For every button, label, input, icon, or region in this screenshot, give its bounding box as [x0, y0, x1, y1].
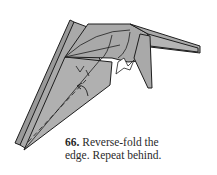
step-caption: 66. Reverse-fold the edge. Repeat behind…: [65, 136, 215, 162]
caption-line-2: edge. Repeat behind.: [65, 149, 161, 161]
step-number: 66.: [65, 136, 79, 148]
caption-line-1: Reverse-fold the: [82, 136, 158, 148]
model-body: [15, 20, 200, 150]
